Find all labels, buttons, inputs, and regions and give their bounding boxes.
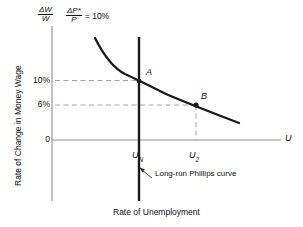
x-tick-label-un: UN xyxy=(132,145,143,164)
y-axis-symbol-denominator: W xyxy=(38,15,53,23)
long-run-phillips-curve-note: Long-run Phillips curve xyxy=(155,170,236,178)
point-b-marker xyxy=(193,102,198,107)
phillips-curve-chart: ΔW W ΔP* P = 10% 10% 6% 0 A B UN U2 U Lo… xyxy=(0,0,303,227)
x-tick-label-u2: U2 xyxy=(189,145,199,164)
x-axis-symbol: U xyxy=(285,134,292,143)
expected-inflation-value: = 10% xyxy=(85,12,109,21)
y-axis-title: Rate of Change in Money Wage xyxy=(13,65,23,186)
point-a-marker xyxy=(137,79,142,84)
x-axis-title: Rate of Unemployment xyxy=(113,208,200,217)
point-b-label: B xyxy=(201,92,207,101)
point-a-label: A xyxy=(146,68,152,77)
x-tick-label-un-subscript: N xyxy=(139,156,144,163)
y-axis-symbol: ΔW W xyxy=(38,6,53,24)
expected-inflation-annotation: ΔP* P = 10% xyxy=(66,7,109,25)
chart-canvas xyxy=(0,0,303,227)
expected-inflation-denominator: P xyxy=(66,16,82,24)
x-tick-label-u2-subscript: 2 xyxy=(196,156,200,163)
